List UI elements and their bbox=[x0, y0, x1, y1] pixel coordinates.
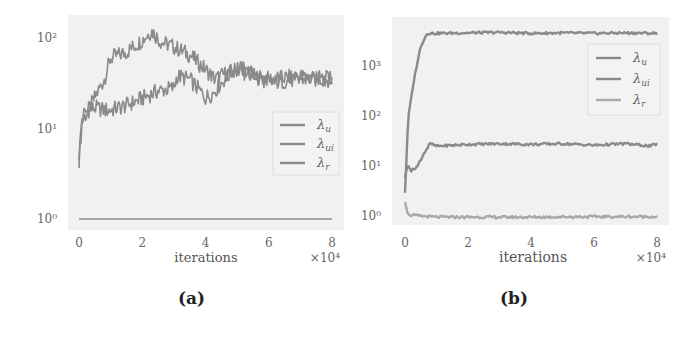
legend-a: λuλuiλr bbox=[273, 112, 339, 175]
x-multiplier-a: ×10⁴ bbox=[310, 251, 340, 265]
x-tick-label: 4 bbox=[527, 236, 535, 250]
legend-b: λuλuiλr bbox=[588, 44, 660, 115]
y-tick-labels-b: 10⁰10¹10²10³ bbox=[361, 59, 381, 223]
x-tick-label: 4 bbox=[202, 236, 210, 250]
y-tick-label: 10⁰ bbox=[37, 212, 57, 226]
y-tick-label: 10¹ bbox=[37, 122, 57, 136]
x-tick-label: 0 bbox=[75, 236, 83, 250]
x-tick-label: 2 bbox=[464, 236, 472, 250]
x-tick-label: 0 bbox=[401, 236, 409, 250]
y-tick-label: 10¹ bbox=[361, 159, 381, 173]
chart-a: 10⁰10¹10² 02468 iterations ×10⁴ λuλuiλr bbox=[0, 0, 348, 341]
x-tick-label: 8 bbox=[328, 236, 336, 250]
y-tick-label: 10² bbox=[361, 109, 381, 123]
x-tick-label: 6 bbox=[265, 236, 273, 250]
x-tick-label: 2 bbox=[138, 236, 146, 250]
figure-panel-a: 10⁰10¹10² 02468 iterations ×10⁴ λuλuiλr … bbox=[0, 0, 348, 341]
x-tick-labels-a: 02468 bbox=[75, 236, 336, 250]
caption-a: (a) bbox=[178, 288, 205, 308]
y-tick-labels-a: 10⁰10¹10² bbox=[37, 31, 57, 226]
y-tick-label: 10³ bbox=[361, 59, 381, 73]
y-tick-label: 10⁰ bbox=[361, 209, 381, 223]
y-tick-label: 10² bbox=[37, 31, 57, 45]
x-tick-label: 6 bbox=[590, 236, 598, 250]
x-axis-label-a: iterations bbox=[174, 250, 237, 265]
x-axis-label-b: iterations bbox=[499, 249, 567, 265]
x-tick-labels-b: 02468 bbox=[401, 236, 661, 250]
caption-b: (b) bbox=[500, 288, 528, 308]
x-tick-label: 8 bbox=[653, 236, 661, 250]
x-multiplier-b: ×10⁴ bbox=[636, 251, 666, 265]
figure-panel-b: 10⁰10¹10²10³ 02468 iterations ×10⁴ λuλui… bbox=[348, 0, 696, 341]
